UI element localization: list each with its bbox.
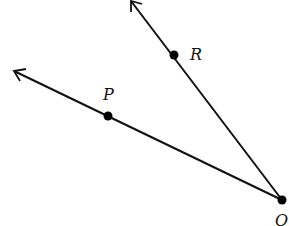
point-p [104, 112, 113, 121]
label-p: P [102, 85, 114, 104]
label-o: O [275, 211, 288, 226]
point-r [170, 51, 179, 60]
angle-diagram: R P O [0, 0, 289, 226]
label-r: R [189, 45, 202, 64]
ray-op [14, 71, 282, 200]
ray-or [131, 1, 282, 200]
point-o [278, 196, 287, 205]
